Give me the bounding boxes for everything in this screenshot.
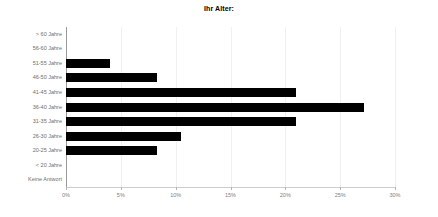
y-axis-category-label: 31-35 Jahre [33,118,62,125]
x-axis-tick-label: 30% [380,192,410,198]
bar[interactable] [66,59,110,68]
x-axis-tick-label: 25% [325,192,355,198]
x-axis-tick [285,187,286,190]
y-axis-category-label: > 60 Jahre [36,31,62,38]
x-axis-tick [66,187,67,190]
bar[interactable] [66,132,181,141]
bar[interactable] [66,73,157,82]
y-axis-category-label: 26-30 Jahre [33,133,62,140]
x-axis-tick-label: 15% [216,192,246,198]
bar[interactable] [66,117,296,126]
y-axis-category-label: 41-45 Jahre [33,89,62,96]
x-axis-tick [231,187,232,190]
y-axis-category-label: 46-50 Jahre [33,74,62,81]
x-axis-tick-label: 5% [106,192,136,198]
y-axis-category-label: < 20 Jahre [36,162,62,169]
y-axis-category-label: 51-55 Jahre [33,60,62,67]
plot-area [66,27,395,187]
x-axis-tick [121,187,122,190]
x-axis-tick-label: 10% [161,192,191,198]
bar[interactable] [66,103,364,112]
x-axis-tick [395,187,396,190]
y-axis-category-label: 56-60 Jahre [33,45,62,52]
y-axis-category-label: Keine Antwort [28,176,62,183]
x-axis-tick [176,187,177,190]
x-axis-tick-label: 0% [51,192,81,198]
y-axis-category-label: 20-25 Jahre [33,147,62,154]
y-axis-category-labels: > 60 Jahre56-60 Jahre51-55 Jahre46-50 Ja… [0,27,62,187]
gridline [395,27,396,187]
y-axis-category-label: 36-40 Jahre [33,104,62,111]
x-axis-tick [340,187,341,190]
bar[interactable] [66,146,157,155]
chart-title: Ihr Alter: [0,5,438,12]
bar[interactable] [66,88,296,97]
x-axis-tick-label: 20% [270,192,300,198]
bar-chart: Ihr Alter: > 60 Jahre56-60 Jahre51-55 Ja… [0,0,438,217]
